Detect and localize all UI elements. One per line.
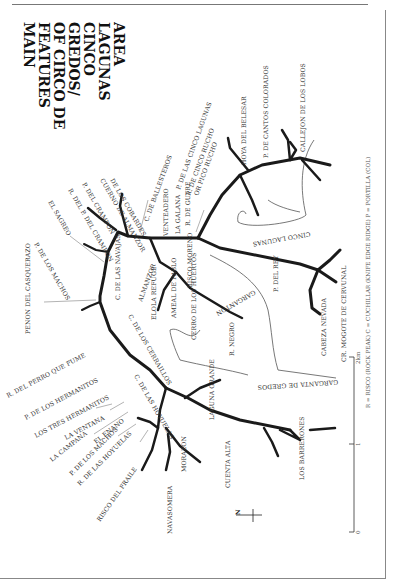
label-cerro-de-los-huertos: CERRO DE LOS HUERTOS [190,252,197,340]
svg-text:GREDOS/: GREDOS/ [66,22,82,97]
svg-text:AREA: AREA [111,21,127,67]
label-p-del-rey: P. DEL REY [272,255,279,292]
label-cabeza-nevada: CABEZA NEVADA [320,297,327,356]
label-venteadero: VENTEADERO [162,188,169,237]
svg-text:OF CIRCO DE: OF CIRCO DE [51,22,67,129]
label-el-sagreo: EL SAGREO [47,199,73,237]
svg-text:1: 1 [355,442,361,446]
map-title: MAIN FEATURES OF CIRCO DE GREDOS/ CINCO … [21,21,127,129]
label-los-barrerones: LOS BARRERONES [298,416,305,480]
svg-text:CINCO: CINCO [81,22,97,76]
label-risco-del-fraile: RISCO DEL FRAILE [95,465,138,522]
label-morazon: MORAZON [180,435,187,472]
svg-text:LAGUNAS: LAGUNAS [96,22,112,101]
map-frame: MAIN FEATURES OF CIRCO DE GREDOS/ CINCO … [0,0,394,586]
map-canvas: MAIN FEATURES OF CIRCO DE GREDOS/ CINCO … [0,0,394,586]
label-c-de-las-navajas: C. DE LAS NAVAJAS [114,234,122,300]
svg-text:2km: 2km [355,351,361,364]
svg-text:N: N [234,509,241,515]
label-navasomera: NAVASOMERA [166,485,173,534]
leader-lines [44,200,204,442]
label-callejon-de-los-lobos: CALLEJON DE LOS LOBOS [299,63,307,152]
label-r-de-gutre: R. DE GUTRE [184,181,191,226]
label-la-galana: LA GALANA [174,194,181,234]
label-p-de-los-machos-upper: P. DE LOS MACHOS [33,241,72,301]
label-cinco-lagunas: CINCO LAGUNAS [252,231,311,248]
svg-text:0: 0 [355,530,361,534]
legend-text: R = RISCO (ROCK PEAK) C = CUCHILLAR (KNI… [365,157,371,408]
north-arrow-icon: N [234,509,262,522]
label-garganta-de-gredos: GARGANTA DE GREDOS [257,379,338,392]
label-p-de-cantos-colorados: P. DE CANTOS COLORADOS [262,65,269,158]
label-elola-refuge: ELOLA REFUGE [150,266,157,320]
label-cuenta-alta: CUENTA ALTA [224,440,231,488]
label-ameal-de-pablo: AMEAL DE PABLO [170,257,177,319]
label-laguna-grande: LAGUNA GRANDE [208,359,215,420]
svg-text:MAIN: MAIN [21,22,37,68]
feature-labels: HOYA DEL BELESAR P. DE CANTOS COLORADOS … [5,63,347,534]
label-penon-del-casquerazo: PENON DEL CASQUERAZO [24,243,31,334]
scale-bar: 0 1 2km [349,351,361,534]
label-r-negro: R. NEGRO [228,322,235,356]
label-cr-mogote-de-cervunal: CR. MOGOTE DE CERVUNAL [340,266,347,362]
svg-text:FEATURES: FEATURES [36,22,52,108]
label-hoya-del-belesar: HOYA DEL BELESAR [240,96,247,165]
label-garganton: GARGANTON [215,289,257,318]
